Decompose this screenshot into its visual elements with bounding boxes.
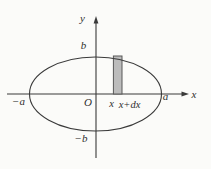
ellipse-strip-diagram: y b −b −a O x x+dx a x (0, 0, 211, 169)
a-left-label: −a (12, 95, 25, 106)
strip-x-label: x (109, 99, 114, 110)
origin-label: O (84, 97, 92, 108)
diagram-canvas (0, 0, 211, 169)
b-bottom-label: −b (75, 133, 88, 144)
b-top-label: b (81, 40, 87, 51)
differential-strip (113, 56, 122, 94)
x-axis-label: x (192, 88, 197, 99)
y-axis-label: y (80, 13, 85, 24)
strip-x-dx-label: x+dx (119, 99, 141, 110)
a-right-label: a (163, 91, 169, 102)
